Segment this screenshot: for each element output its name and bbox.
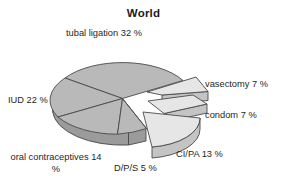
slice-label-oral-contraceptives: oral contraceptives 14 % xyxy=(6,152,106,175)
slice-label-cipa: CI/PA 13 % xyxy=(176,149,223,161)
pie-slice-dps xyxy=(118,99,147,135)
slice-label-condom: condom 7 % xyxy=(205,110,257,122)
chart-title: World xyxy=(0,7,287,19)
slice-label-iud: IUD 22 % xyxy=(8,95,48,107)
slice-label-vasectomy: vasectomy 7 % xyxy=(205,79,268,91)
slice-label-tubal-ligation: tubal ligation 32 % xyxy=(66,28,142,40)
pie-chart-figure: .top-main { fill:#b9b9b9; stroke:#4a4a4a… xyxy=(0,0,287,185)
slice-label-dps: D/P/S 5 % xyxy=(114,163,157,175)
